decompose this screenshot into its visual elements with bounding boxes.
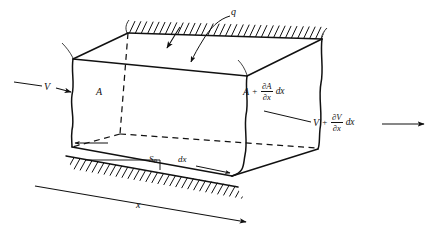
outflow-velocity-symbol: V bbox=[313, 118, 319, 128]
lateral-inflow-label: q bbox=[231, 7, 236, 17]
bed-slope-label: S0 bbox=[149, 155, 157, 165]
control-volume-top-face bbox=[73, 33, 322, 76]
outflow-velocity-expression: V + ∂V ∂x dx bbox=[313, 113, 355, 132]
right-face-edge bbox=[318, 39, 322, 149]
x-axis-arrow bbox=[35, 186, 246, 222]
x-axis-label: x bbox=[136, 200, 140, 210]
outflow-velocity-differential: dx bbox=[346, 118, 355, 127]
top-boundary-surface bbox=[126, 19, 328, 42]
top-left-whisker-tick bbox=[126, 20, 129, 33]
outflow-area-plus-sign: + bbox=[252, 87, 257, 96]
outflow-area-expression: A + ∂A ∂x dx bbox=[243, 82, 285, 101]
downstream-face-edges bbox=[232, 60, 247, 176]
outflow-velocity-denominator: ∂x bbox=[332, 123, 342, 132]
control-volume-bottom-edges bbox=[72, 147, 318, 176]
lateral-inflow-q-arrow bbox=[191, 16, 230, 62]
outflow-area-symbol: A bbox=[243, 87, 249, 97]
inflow-velocity-arrow bbox=[14, 82, 71, 92]
element-length-label: dx bbox=[178, 155, 187, 164]
channel-bed bbox=[66, 154, 250, 201]
diagram-canvas bbox=[0, 0, 438, 244]
upstream-face-edges bbox=[62, 43, 73, 147]
outflow-velocity-plus-sign: + bbox=[322, 118, 327, 127]
outflow-area-fraction: ∂A ∂x bbox=[261, 82, 273, 101]
outflow-area-differential: dx bbox=[276, 87, 285, 96]
open-channel-control-volume-figure: q V A A + ∂A ∂x dx V + ∂V ∂x dx S0 dx x bbox=[0, 0, 438, 244]
downstream-corner-whisker bbox=[238, 60, 247, 75]
outflow-area-numerator: ∂A bbox=[261, 82, 273, 92]
bed-slope-subscript: 0 bbox=[154, 157, 157, 164]
inflow-area-label: A bbox=[96, 87, 102, 97]
bed-slope-symbol: S bbox=[149, 154, 154, 164]
inflow-velocity-label: V bbox=[44, 82, 50, 92]
outflow-velocity-fraction: ∂V ∂x bbox=[331, 113, 343, 132]
outflow-area-denominator: ∂x bbox=[262, 92, 272, 101]
upstream-corner-whisker bbox=[62, 43, 73, 58]
outflow-velocity-numerator: ∂V bbox=[331, 113, 343, 123]
